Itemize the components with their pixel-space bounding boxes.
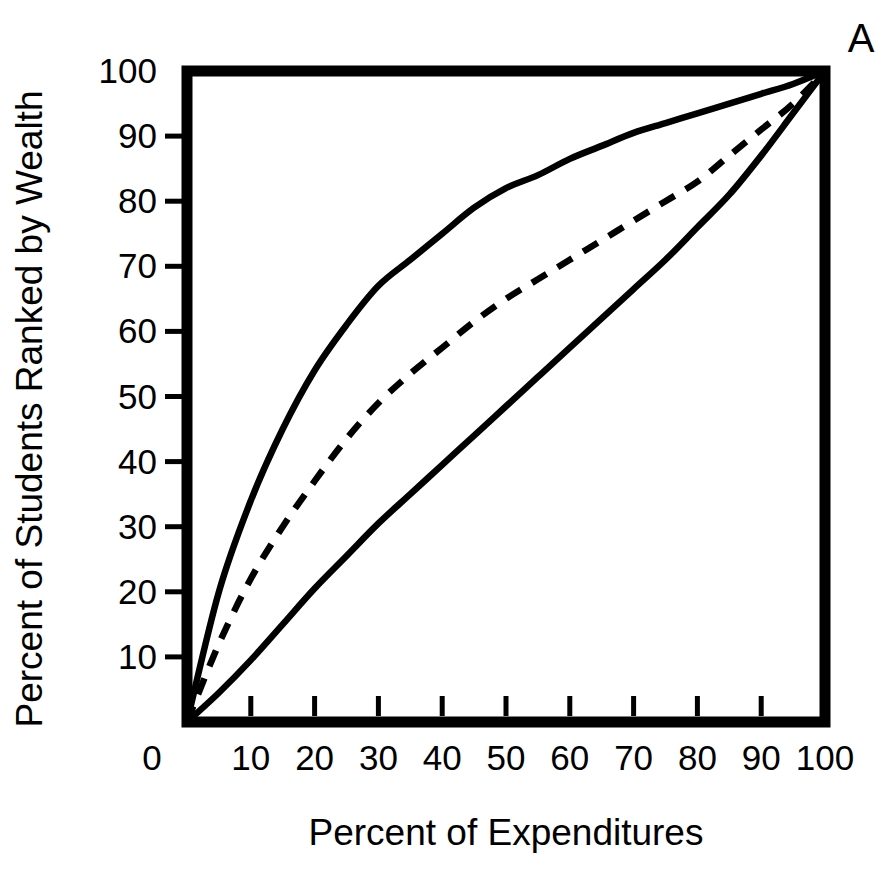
y-tick-label: 40 xyxy=(118,442,157,481)
x-tick-label: 60 xyxy=(550,738,589,777)
x-tick-label: 50 xyxy=(487,738,526,777)
panel-label: A xyxy=(848,16,875,60)
x-tick-label: 10 xyxy=(231,738,270,777)
x-axis-title: Percent of Expenditures xyxy=(309,812,704,853)
y-tick-label: 10 xyxy=(118,637,157,676)
y-tick-label: 60 xyxy=(118,311,157,350)
x-tick-label: 80 xyxy=(678,738,717,777)
x-tick-label: 0 xyxy=(142,738,161,777)
chart-figure: Percent of Students Ranked by Wealth A 1… xyxy=(0,0,886,876)
y-tick-label: 90 xyxy=(118,116,157,155)
y-axis-title: Percent of Students Ranked by Wealth xyxy=(9,91,50,728)
x-tick-label: 40 xyxy=(423,738,462,777)
lorenz-curve-chart: Percent of Students Ranked by Wealth A 1… xyxy=(0,0,886,876)
x-tick-label: 70 xyxy=(614,738,653,777)
y-tick-label: 50 xyxy=(118,377,157,416)
x-tick-label: 20 xyxy=(295,738,334,777)
x-tick-label: 30 xyxy=(359,738,398,777)
y-tick-label: 30 xyxy=(118,507,157,546)
x-tick-label: 100 xyxy=(796,738,854,777)
y-tick-label: 80 xyxy=(118,181,157,220)
y-tick-label: 70 xyxy=(118,246,157,285)
x-axis-tick-labels: 0102030405060708090100 xyxy=(142,738,854,777)
y-tick-label: 100 xyxy=(99,51,157,90)
y-tick-label: 20 xyxy=(118,572,157,611)
x-tick-label: 90 xyxy=(742,738,781,777)
